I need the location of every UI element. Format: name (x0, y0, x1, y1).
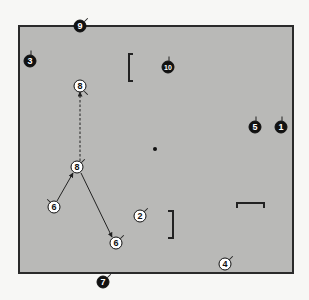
player-number: 1 (278, 123, 283, 132)
player-marker-offense-2[interactable]: 2 (134, 210, 147, 223)
bracket-right-top (236, 202, 265, 208)
player-number: 8 (77, 82, 82, 91)
disc-icon (153, 147, 157, 151)
player-marker-offense-8[interactable]: 8 (71, 161, 84, 174)
player-number: 9 (77, 22, 82, 31)
player-marker-offense-4[interactable]: 4 (219, 258, 232, 271)
player-number: 2 (137, 212, 142, 221)
player-number: 4 (222, 260, 227, 269)
player-number: 8 (74, 163, 79, 172)
facing-tick-icon (84, 18, 88, 22)
play-diagram: 9310851862647 (0, 0, 309, 300)
player-number: 10 (164, 64, 172, 71)
player-number: 3 (27, 57, 32, 66)
player-marker-offense-8[interactable]: 8 (74, 80, 87, 93)
bracket-mid-right (168, 210, 174, 239)
player-number: 6 (113, 239, 118, 248)
facing-tick-icon (169, 57, 170, 62)
player-marker-offense-6[interactable]: 6 (110, 237, 123, 250)
player-marker-defense-10[interactable]: 10 (162, 61, 175, 74)
player-marker-offense-6[interactable]: 6 (48, 201, 61, 214)
player-number: 7 (100, 278, 105, 287)
player-number: 5 (252, 123, 257, 132)
bracket-top-left (128, 53, 133, 82)
player-number: 6 (51, 203, 56, 212)
player-marker-defense-9[interactable]: 9 (74, 20, 87, 33)
facing-tick-icon (107, 274, 111, 278)
player-marker-defense-3[interactable]: 3 (24, 55, 37, 68)
player-marker-defense-7[interactable]: 7 (97, 276, 110, 289)
player-marker-defense-1[interactable]: 1 (275, 121, 288, 134)
player-marker-defense-5[interactable]: 5 (249, 121, 262, 134)
